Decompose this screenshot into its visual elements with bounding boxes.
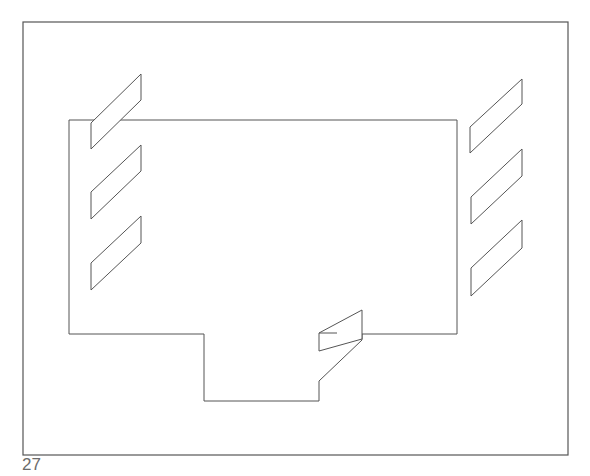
right-bar-3 (471, 220, 522, 296)
page-number: 27 (22, 456, 41, 474)
right-bar-1 (470, 79, 522, 153)
diagram-canvas (0, 0, 590, 476)
right-slanted-bars (470, 79, 522, 296)
right-bar-2 (471, 149, 522, 224)
